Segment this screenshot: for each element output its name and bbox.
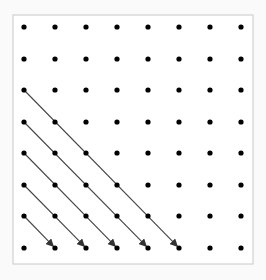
lattice-diagram [0, 0, 266, 280]
lattice-point [83, 56, 88, 61]
lattice-point [83, 182, 88, 187]
lattice-point [145, 245, 150, 250]
lattice-point [145, 119, 150, 124]
lattice-point [21, 182, 26, 187]
lattice-point [176, 24, 181, 29]
lattice-point [52, 119, 57, 124]
lattice-point [145, 24, 150, 29]
lattice-point [52, 150, 57, 155]
lattice-point [83, 24, 88, 29]
lattice-point [145, 213, 150, 218]
lattice-point [52, 213, 57, 218]
lattice-point [145, 150, 150, 155]
lattice-point [145, 87, 150, 92]
lattice-point [176, 182, 181, 187]
lattice-point [21, 24, 26, 29]
lattice-point [114, 119, 119, 124]
lattice-point [114, 182, 119, 187]
lattice-point [52, 245, 57, 250]
lattice-point [21, 245, 26, 250]
lattice-point [176, 87, 181, 92]
lattice-point [21, 150, 26, 155]
lattice-point [52, 56, 57, 61]
lattice-point [52, 182, 57, 187]
lattice-point [176, 245, 181, 250]
lattice-point [207, 245, 212, 250]
lattice-point [238, 213, 243, 218]
lattice-point [207, 119, 212, 124]
lattice-point [83, 119, 88, 124]
lattice-point [52, 87, 57, 92]
lattice-point [207, 150, 212, 155]
lattice-point [207, 87, 212, 92]
lattice-point [238, 87, 243, 92]
lattice-point [145, 56, 150, 61]
lattice-point [145, 182, 150, 187]
lattice-point [207, 56, 212, 61]
lattice-point [52, 24, 57, 29]
lattice-point [83, 87, 88, 92]
lattice-point [83, 245, 88, 250]
lattice-point [238, 245, 243, 250]
lattice-point [114, 87, 119, 92]
lattice-point [176, 119, 181, 124]
lattice-point [238, 24, 243, 29]
diagram-frame [13, 15, 253, 264]
lattice-point [238, 56, 243, 61]
lattice-point [207, 182, 212, 187]
lattice-point [238, 119, 243, 124]
lattice-point [21, 87, 26, 92]
lattice-point [21, 213, 26, 218]
lattice-point [114, 245, 119, 250]
lattice-point [83, 213, 88, 218]
lattice-point [176, 150, 181, 155]
lattice-point [207, 24, 212, 29]
lattice-point [83, 150, 88, 155]
lattice-point [114, 213, 119, 218]
lattice-point [238, 150, 243, 155]
lattice-point [114, 56, 119, 61]
lattice-point [21, 119, 26, 124]
lattice-point [207, 213, 212, 218]
lattice-point [114, 24, 119, 29]
lattice-point [21, 56, 26, 61]
lattice-point [114, 150, 119, 155]
lattice-point [176, 213, 181, 218]
lattice-point [176, 56, 181, 61]
lattice-point [238, 182, 243, 187]
